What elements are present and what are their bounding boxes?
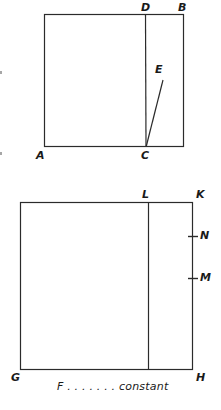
label-point-c: C	[141, 150, 149, 161]
upper-ray-CE	[146, 80, 163, 147]
label-point-n: N	[200, 230, 209, 241]
label-point-a: A	[36, 150, 45, 161]
lower-rectangle	[21, 203, 193, 370]
scan-speck-lower-icon	[0, 152, 2, 155]
label-point-e: E	[155, 64, 163, 75]
geometry-drawing	[0, 0, 221, 410]
label-point-m: M	[200, 272, 211, 283]
label-point-d: D	[141, 2, 150, 13]
label-point-l: L	[142, 189, 149, 200]
label-point-b: B	[178, 2, 186, 13]
upper-figure-geometry	[45, 15, 184, 147]
label-point-h: H	[196, 372, 205, 383]
lower-figure-geometry	[21, 203, 199, 370]
figure-caption-constant: F . . . . . . . constant	[57, 381, 168, 393]
scan-speck-upper-icon	[0, 71, 2, 74]
label-point-k: K	[196, 189, 205, 200]
upper-divider-DC	[146, 15, 147, 147]
label-point-g: G	[11, 372, 20, 383]
figure-page: A B C D E G H K L M N F . . . . . . . co…	[0, 0, 221, 410]
